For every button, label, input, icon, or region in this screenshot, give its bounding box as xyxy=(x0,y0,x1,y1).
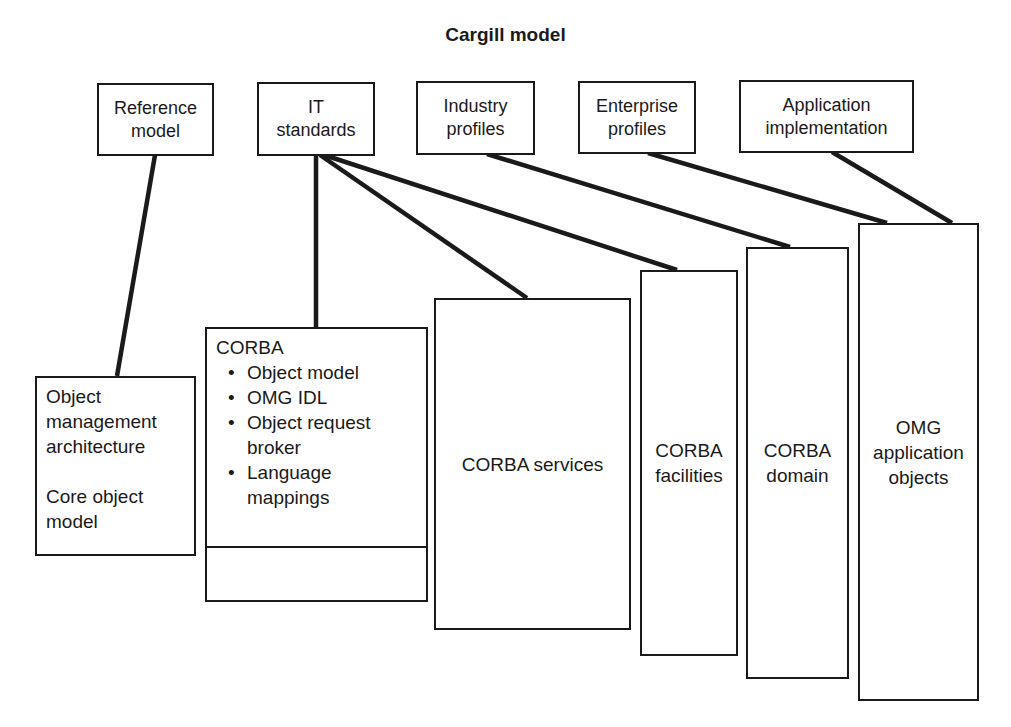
box-label: management xyxy=(46,409,194,434)
box-label: CORBA xyxy=(764,440,832,461)
box-label: profiles xyxy=(446,119,504,139)
box-label: Industry xyxy=(443,96,507,116)
corba-box: CORBA Object model OMG IDL Object reques… xyxy=(205,327,428,602)
bullet-item: Language mappings xyxy=(228,460,357,510)
line-it-to-services xyxy=(320,155,527,298)
box-label: architecture xyxy=(46,434,194,459)
box-label: model xyxy=(131,121,180,141)
corba-heading: CORBA xyxy=(216,335,426,360)
corba-domain-box: CORBAdomain xyxy=(746,247,849,679)
box-label: domain xyxy=(766,465,828,486)
box-label: model xyxy=(46,509,194,534)
line-industry-to-domain xyxy=(487,154,790,247)
enterprise-profiles-box: Enterpriseprofiles xyxy=(578,81,696,154)
box-label: Object xyxy=(46,384,194,409)
bullet-item: OMG IDL xyxy=(228,385,426,410)
box-label: CORBA services xyxy=(462,452,603,477)
bullet-item: Object request broker xyxy=(228,410,397,460)
box-label: IT xyxy=(308,97,324,117)
box-label: standards xyxy=(276,120,355,140)
corba-divider xyxy=(207,546,426,548)
omg-application-objects-box: OMGapplicationobjects xyxy=(858,223,979,701)
box-label: Application xyxy=(782,95,870,115)
line-reference-to-oma xyxy=(117,155,155,376)
box-label: application xyxy=(873,442,964,463)
box-label: Enterprise xyxy=(596,96,678,116)
object-management-architecture-box: Object management architecture Core obje… xyxy=(35,376,196,556)
corba-facilities-box: CORBAfacilities xyxy=(640,270,738,656)
box-label: objects xyxy=(888,467,948,488)
corba-bullet-list: Object model OMG IDL Object request brok… xyxy=(216,360,426,510)
box-label: Reference xyxy=(114,98,197,118)
box-label: Core object xyxy=(46,484,194,509)
reference-model-box: Referencemodel xyxy=(97,83,214,156)
corba-services-box: CORBA services xyxy=(434,298,631,630)
bullet-item: Object model xyxy=(228,360,426,385)
box-label: CORBA xyxy=(655,440,723,461)
it-standards-box: ITstandards xyxy=(257,82,375,156)
application-implementation-box: Applicationimplementation xyxy=(739,80,914,153)
box-label: profiles xyxy=(608,119,666,139)
industry-profiles-box: Industryprofiles xyxy=(416,81,535,155)
line-it-to-facilities xyxy=(324,155,677,270)
box-label: implementation xyxy=(765,118,887,138)
box-label: facilities xyxy=(655,465,723,486)
box-label: OMG xyxy=(896,417,941,438)
